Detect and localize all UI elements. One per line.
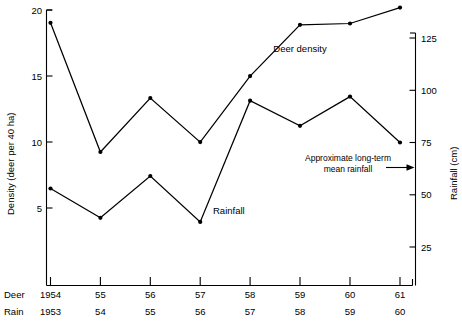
deer-point-56 [148,96,152,100]
deer-point-1954 [48,21,52,25]
right-tick-label-125: 125 [421,33,437,44]
rain-year-0: 1953 [40,306,61,317]
left-tick-label-5: 5 [37,203,42,214]
deer-year-3: 57 [195,289,206,300]
deer-density-series-label: Deer density [273,43,327,54]
rain-point-54 [98,216,102,220]
deer-point-60 [348,21,352,25]
left-tick-label-15: 15 [31,71,42,82]
right-tick-label-75: 75 [421,137,432,148]
category-table: Deer Rain 1954 55 56 57 58 59 60 61 1953… [4,289,405,317]
deer-density-line [51,8,401,152]
deer-year-1: 55 [95,289,106,300]
right-axis: 125 100 75 50 25 Rainfall (cm) [410,33,460,286]
mean-rainfall-annotation-line2: mean rainfall [324,164,373,174]
rain-point-60 [398,140,402,144]
left-tick-label-10: 10 [31,137,42,148]
rain-point-59 [348,95,352,99]
right-axis-title: Rainfall (cm) [448,147,459,200]
row-label-deer: Deer [4,289,25,300]
left-axis: 20 15 10 5 Density (deer per 40 ha) [5,5,53,286]
rainfall-series-label: Rainfall [213,205,245,216]
deer-year-0: 1954 [40,289,61,300]
deer-point-55 [98,150,102,154]
figure-container: 20 15 10 5 Density (deer per 40 ha) 125 … [0,0,462,325]
row-label-rain: Rain [4,306,24,317]
right-tick-label-25: 25 [421,242,432,253]
rain-year-1: 54 [95,306,106,317]
deer-point-61 [398,6,402,10]
rain-year-6: 59 [345,306,356,317]
deer-year-7: 61 [395,289,406,300]
deer-density-rainfall-chart: 20 15 10 5 Density (deer per 40 ha) 125 … [0,0,462,325]
rain-year-7: 60 [395,306,406,317]
rain-point-55 [148,174,152,178]
mean-rainfall-arrow-head-icon [407,164,415,171]
deer-year-2: 56 [145,289,156,300]
deer-point-58 [248,74,252,78]
deer-year-5: 59 [295,289,306,300]
right-tick-label-50: 50 [421,189,432,200]
rain-point-57 [248,99,252,103]
deer-year-4: 58 [245,289,256,300]
deer-point-59 [298,23,302,27]
left-axis-title: Density (deer per 40 ha) [5,113,16,215]
left-tick-label-20: 20 [31,5,42,16]
rain-year-3: 56 [195,306,206,317]
rain-year-4: 57 [245,306,256,317]
rain-point-58 [298,124,302,128]
rain-year-5: 58 [295,306,306,317]
series-deer-density: Deer density [48,6,402,155]
rain-year-2: 55 [145,306,156,317]
deer-year-6: 60 [345,289,356,300]
mean-rainfall-annotation: Approximate long-term mean rainfall [305,153,414,174]
bottom-axis [47,277,413,286]
right-tick-label-100: 100 [421,85,437,96]
mean-rainfall-annotation-line1: Approximate long-term [305,153,391,163]
rain-point-56 [198,220,202,224]
deer-point-57 [198,140,202,144]
rain-point-1953 [48,186,52,190]
